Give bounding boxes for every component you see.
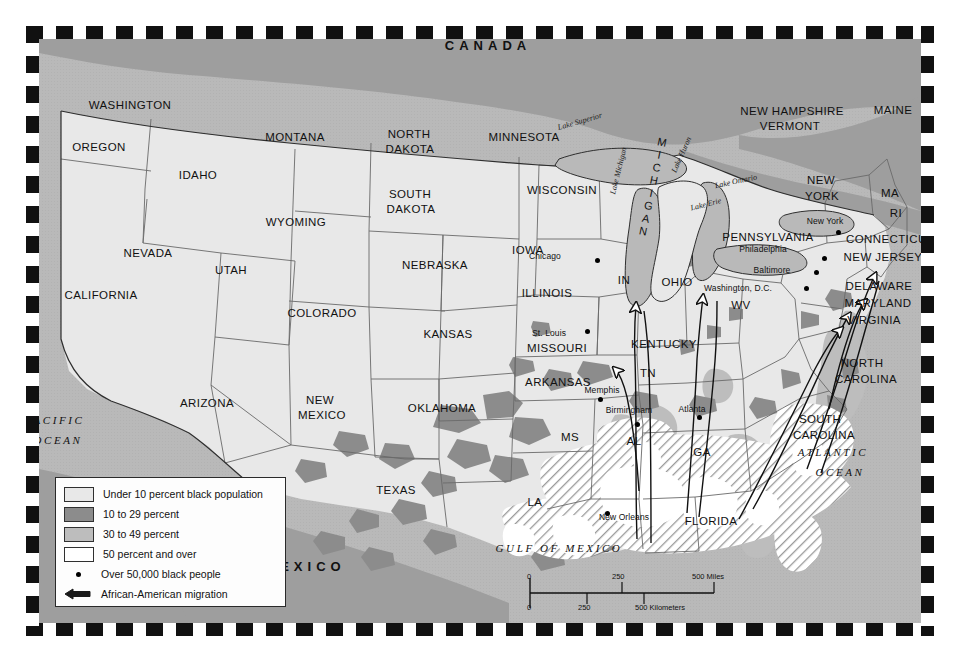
state-label-north: NORTH bbox=[841, 357, 884, 369]
state-label-ma: MA bbox=[881, 187, 899, 199]
state-label-kansas: KANSAS bbox=[423, 328, 472, 340]
state-label-tn: TN bbox=[640, 367, 656, 379]
legend-label-30-49: 30 to 49 percent bbox=[103, 528, 179, 540]
state-label-new: NEW bbox=[306, 394, 334, 406]
state-label-maryland: MARYLAND bbox=[845, 297, 912, 309]
state-label-arkansas: ARKANSAS bbox=[525, 376, 591, 388]
legend-item-city-dot: Over 50,000 black people bbox=[64, 564, 278, 584]
state-label-oklahoma: OKLAHOMA bbox=[408, 402, 476, 414]
legend-label-migration: African-American migration bbox=[101, 588, 228, 600]
state-label-delaware: DELAWARE bbox=[846, 280, 913, 292]
state-label-ri: RI bbox=[890, 207, 902, 219]
legend-label-50-over: 50 percent and over bbox=[103, 548, 196, 560]
legend-item-10-29: 10 to 29 percent bbox=[64, 504, 278, 524]
state-label-vermont: VERMONT bbox=[760, 120, 820, 132]
state-label-new-jersey: NEW JERSEY bbox=[844, 251, 921, 263]
city-label-new-york: New York bbox=[807, 217, 844, 226]
state-label-new: NEW bbox=[807, 174, 835, 186]
city-dot-atlanta bbox=[697, 415, 702, 420]
state-label-carolina: CAROLINA bbox=[793, 429, 855, 441]
state-label-kentucky: KENTUCKY bbox=[631, 338, 697, 350]
city-dot-st-louis bbox=[585, 329, 590, 334]
state-label-colorado: COLORADO bbox=[287, 307, 356, 319]
state-label-illinois: ILLINOIS bbox=[522, 287, 573, 299]
state-label-minnesota: MINNESOTA bbox=[488, 131, 559, 143]
city-dot-washington-d-c bbox=[804, 286, 809, 291]
state-label-south: SOUTH bbox=[799, 413, 841, 425]
legend-item-under-10: Under 10 percent black population bbox=[64, 484, 278, 504]
legend-label-city-dot: Over 50,000 black people bbox=[101, 568, 221, 580]
legend-label-under-10: Under 10 percent black population bbox=[103, 488, 263, 500]
scale-miles-tick-500: 500 Miles bbox=[692, 572, 724, 581]
water-label-0: PACIFIC bbox=[39, 415, 84, 427]
legend-label-10-29: 10 to 29 percent bbox=[103, 508, 179, 520]
water-label-2: ATLANTIC bbox=[798, 447, 869, 459]
state-label-carolina: CAROLINA bbox=[835, 373, 897, 385]
legend-swatch-30-49 bbox=[64, 527, 94, 542]
city-dot-memphis bbox=[598, 397, 603, 402]
city-label-philadelphia: Philadelphia bbox=[739, 245, 787, 254]
legend-swatch-under-10 bbox=[64, 487, 94, 502]
state-label-connecticut: CONNECTICUT bbox=[846, 233, 921, 245]
state-label-la: LA bbox=[528, 496, 543, 508]
water-label-3: OCEAN bbox=[815, 467, 864, 479]
state-label-texas: TEXAS bbox=[376, 484, 416, 496]
legend-swatch-50-over bbox=[64, 547, 94, 562]
legend-swatch-10-29 bbox=[64, 507, 94, 522]
legend-box: Under 10 percent black population 10 to … bbox=[55, 477, 286, 607]
legend-item-migration: African-American migration bbox=[64, 584, 278, 604]
legend-item-50-over: 50 percent and over bbox=[64, 544, 278, 564]
city-label-birmingham: Birmingham bbox=[606, 406, 652, 415]
state-label-ga: GA bbox=[693, 446, 710, 458]
city-dot-new-york bbox=[836, 230, 841, 235]
country-label-canada: CANADA bbox=[445, 39, 531, 53]
migration-arrow-icon bbox=[64, 588, 92, 600]
state-label-missouri: MISSOURI bbox=[527, 342, 587, 354]
city-label-washington-d-c: Washington, D.C. bbox=[704, 284, 772, 293]
scale-km-tick-0: 0 bbox=[527, 603, 531, 612]
frame-band-right bbox=[921, 26, 934, 636]
city-dot-new-orleans bbox=[605, 511, 610, 516]
state-label-mexico: MEXICO bbox=[298, 409, 346, 421]
state-label-north: NORTH bbox=[388, 128, 431, 140]
state-label-new-hampshire: NEW HAMPSHIRE bbox=[740, 105, 844, 117]
state-label-south: SOUTH bbox=[389, 188, 431, 200]
state-label-florida: FLORIDA bbox=[685, 515, 738, 527]
state-label-ohio: OHIO bbox=[662, 276, 693, 288]
state-label-dakota: DAKOTA bbox=[387, 203, 436, 215]
city-label-chicago: Chicago bbox=[529, 252, 561, 261]
city-label-memphis: Memphis bbox=[584, 386, 619, 395]
scale-km-tick-500: 500 Kilometers bbox=[635, 603, 685, 612]
state-label-montana: MONTANA bbox=[265, 131, 324, 143]
state-label-california: CALIFORNIA bbox=[64, 289, 137, 301]
scale-miles-tick-250: 250 bbox=[612, 572, 625, 581]
city-dot-philadelphia bbox=[822, 256, 827, 261]
state-label-al: AL bbox=[627, 435, 642, 447]
frame-band-top bbox=[26, 26, 934, 39]
water-label-1: OCEAN bbox=[39, 435, 83, 447]
state-label-washington: WASHINGTON bbox=[89, 99, 172, 111]
state-label-utah: UTAH bbox=[215, 264, 247, 276]
frame-band-left bbox=[26, 26, 39, 636]
state-label-oregon: OREGON bbox=[72, 141, 126, 153]
state-label-ms: MS bbox=[561, 431, 579, 443]
city-dot-baltimore bbox=[814, 270, 819, 275]
state-label-dakota: DAKOTA bbox=[386, 143, 435, 155]
state-label-nebraska: NEBRASKA bbox=[402, 259, 468, 271]
water-label-4: GULF OF MEXICO bbox=[496, 543, 623, 555]
legend-dot-symbol bbox=[64, 572, 92, 577]
city-label-atlanta: Atlanta bbox=[678, 405, 705, 414]
frame-band-bottom bbox=[26, 623, 934, 636]
state-label-in: IN bbox=[618, 274, 630, 286]
city-dot-chicago bbox=[595, 258, 600, 263]
state-label-wisconsin: WISCONSIN bbox=[527, 184, 597, 196]
state-label-wyoming: WYOMING bbox=[266, 216, 326, 228]
scale-bar: 0 250 500 Miles 0 250 500 Kilometers bbox=[524, 572, 720, 614]
city-label-baltimore: Baltimore bbox=[754, 266, 791, 275]
state-label-nevada: NEVADA bbox=[124, 247, 173, 259]
map-page: WASHINGTONOREGONIDAHOMONTANAWYOMINGNEVAD… bbox=[0, 0, 960, 662]
scale-miles-tick-0: 0 bbox=[527, 572, 531, 581]
legend-item-30-49: 30 to 49 percent bbox=[64, 524, 278, 544]
state-label-pennsylvania: PENNSYLVANIA bbox=[722, 231, 813, 243]
city-label-st-louis: St. Louis bbox=[532, 329, 566, 338]
